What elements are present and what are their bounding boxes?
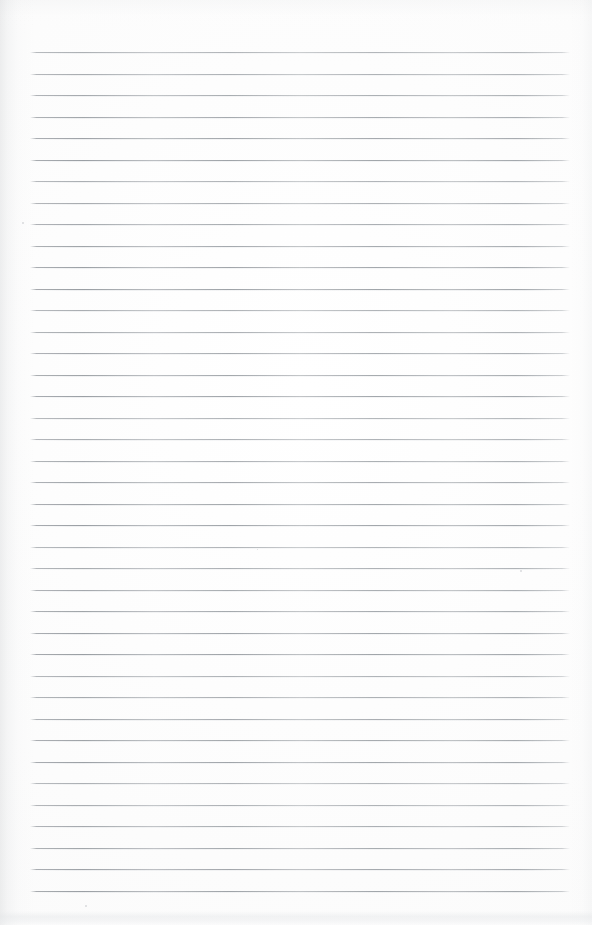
scanned-page	[0, 0, 592, 925]
paper-surface	[0, 0, 592, 925]
